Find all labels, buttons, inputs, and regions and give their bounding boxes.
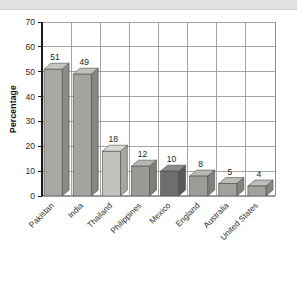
y-tick-label: 30	[26, 116, 36, 126]
bar-value-label: 12	[138, 149, 148, 159]
bar-value-label: 5	[227, 167, 232, 177]
bar-value-label: 51	[50, 52, 60, 62]
x-category-label: Pakistan	[27, 201, 56, 230]
chart-canvas: 010203040506070Percentage5149181210854Pa…	[0, 0, 297, 283]
bar-side-face	[91, 68, 98, 196]
x-category-label: Australia	[202, 201, 231, 230]
bar-front-face	[219, 184, 237, 196]
x-category-label: Philippines	[109, 201, 143, 235]
bar-australia	[219, 178, 244, 196]
y-tick-label: 70	[26, 17, 36, 27]
bar-united-states	[248, 180, 273, 196]
bar-front-face	[190, 176, 208, 196]
x-category-label: Mexico	[148, 201, 173, 226]
y-tick-label: 10	[26, 166, 36, 176]
bar-front-face	[44, 69, 62, 196]
bar-front-face	[102, 151, 120, 196]
x-category-label: India	[66, 201, 85, 220]
bar-value-label: 8	[198, 159, 203, 169]
y-tick-label: 20	[26, 141, 36, 151]
bar-front-face	[131, 166, 149, 196]
bar-value-label: 4	[257, 169, 262, 179]
y-tick-label: 0	[30, 191, 35, 201]
y-tick-label: 60	[26, 42, 36, 52]
y-tick-label: 50	[26, 67, 36, 77]
bar-side-face	[62, 63, 69, 196]
bar-front-face	[248, 186, 266, 196]
x-category-label: Thailand	[86, 201, 115, 230]
bar-value-label: 10	[167, 154, 177, 164]
bar-chart-figure: 010203040506070Percentage5149181210854Pa…	[0, 0, 297, 283]
bar-india	[73, 68, 98, 196]
bar-philippines	[131, 160, 156, 196]
bar-mexico	[161, 165, 186, 196]
bar-side-face	[120, 145, 127, 196]
bar-front-face	[73, 74, 91, 196]
bar-england	[190, 170, 215, 196]
x-category-label: England	[174, 201, 202, 229]
bar-value-label: 49	[79, 57, 89, 67]
bar-value-label: 18	[109, 134, 119, 144]
bar-front-face	[161, 171, 179, 196]
bar-thailand	[102, 145, 127, 196]
y-tick-label: 40	[26, 92, 36, 102]
y-axis-title: Percentage	[8, 85, 18, 133]
bar-pakistan	[44, 63, 69, 196]
